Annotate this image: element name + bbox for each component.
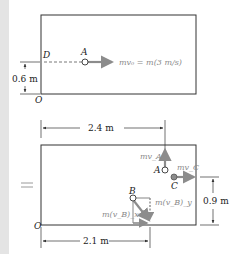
label-A-top: A <box>80 47 88 57</box>
top-panel: D A mv₀ = m(3 m/s) O 0.6 m <box>12 15 196 105</box>
label-mvA: mv_A <box>140 152 162 161</box>
particle-C <box>171 174 177 180</box>
equals-sign <box>21 183 33 187</box>
impulse-momentum-diagram: D A mv₀ = m(3 m/s) O 0.6 m 2.4 m A mv_A … <box>0 0 237 254</box>
label-B: B <box>128 186 136 196</box>
label-A-bottom: A <box>153 165 161 175</box>
label-m-vB-x: m(v_B)_x <box>102 210 139 219</box>
label-C: C <box>171 181 178 191</box>
particle-A <box>82 59 88 65</box>
label-O-top: O <box>35 95 43 105</box>
particle-A-bottom <box>162 167 168 173</box>
top-box <box>41 15 196 94</box>
label-D: D <box>42 50 50 60</box>
label-m-vB-y: m(v_B)_y <box>155 198 192 207</box>
label-momentum-v0: mv₀ = m(3 m/s) <box>119 58 182 67</box>
dim-2.4m: 2.4 m <box>88 123 114 133</box>
label-mvC: mv_C <box>177 163 199 172</box>
dim-0.9m: 0.9 m <box>203 196 229 206</box>
bottom-panel: 2.4 m A mv_A C mv_C B m(v_B)_y m(v_B)_x … <box>34 120 229 248</box>
dim-2.1m: 2.1 m <box>83 236 109 246</box>
dim-0.6m: 0.6 m <box>12 74 38 84</box>
